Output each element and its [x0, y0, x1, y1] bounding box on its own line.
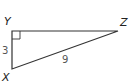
vertex-label-z: Z [119, 16, 128, 29]
triangle-diagram: Y Z X 3 9 [0, 0, 131, 84]
right-angle-marker [12, 31, 20, 39]
side-length-yx: 3 [2, 45, 8, 56]
vertex-label-y: Y [4, 15, 12, 28]
side-length-xz: 9 [62, 54, 68, 65]
vertex-label-x: X [1, 71, 10, 84]
